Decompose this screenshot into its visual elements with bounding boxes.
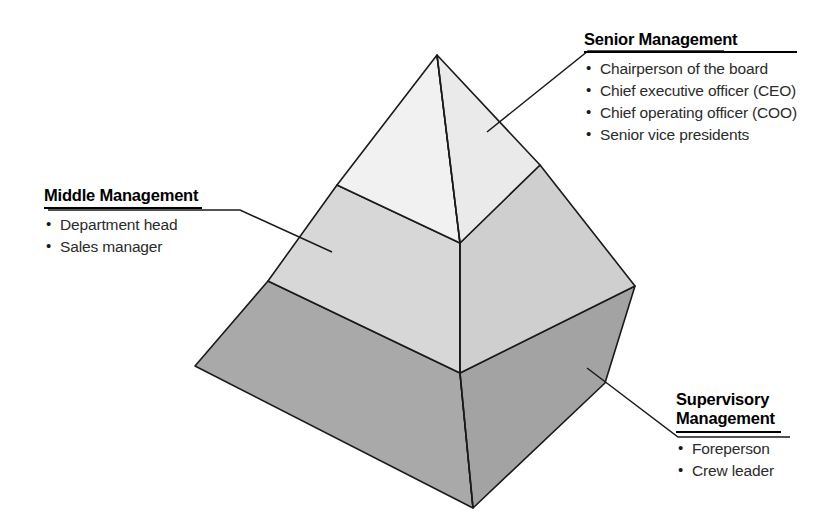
callout-title-supervisory-line2: Management [676, 409, 775, 427]
list-item: Department head [44, 214, 202, 236]
callout-senior-management: Senior Management Chairperson of the boa… [584, 30, 797, 146]
callout-supervisory-management: Supervisory Management Foreperson Crew l… [676, 390, 781, 482]
diagram-canvas: Senior Management Chairperson of the boa… [0, 0, 837, 523]
callout-title-supervisory-line1: Supervisory [676, 390, 769, 408]
list-item: Chief executive officer (CEO) [584, 80, 797, 102]
list-item: Chief operating officer (COO) [584, 102, 797, 124]
callout-list-middle: Department head Sales manager [44, 209, 202, 258]
list-item: Sales manager [44, 236, 202, 258]
callout-list-supervisory: Foreperson Crew leader [676, 433, 781, 482]
list-item: Chairperson of the board [584, 58, 797, 80]
list-item: Foreperson [676, 438, 781, 460]
list-item: Senior vice presidents [584, 124, 797, 146]
callout-title-middle: Middle Management [44, 186, 202, 209]
callout-middle-management: Middle Management Department head Sales … [44, 186, 202, 258]
callout-title-supervisory: Supervisory Management [676, 390, 781, 433]
callout-list-senior: Chairperson of the board Chief executive… [584, 53, 797, 146]
list-item: Crew leader [676, 460, 781, 482]
callout-title-senior: Senior Management [584, 30, 797, 53]
